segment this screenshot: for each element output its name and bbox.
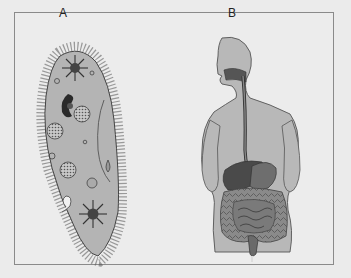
micronucleus <box>67 103 73 109</box>
paramecium <box>41 46 123 262</box>
human-figure <box>202 37 300 262</box>
rectum <box>248 236 258 257</box>
food-vacuole-small <box>87 178 97 188</box>
cell-body <box>45 51 119 256</box>
food-vacuole <box>60 162 76 178</box>
contractile-vacuole-bottom <box>79 200 107 228</box>
diagram-canvas <box>0 0 351 278</box>
food-vacuole <box>74 106 90 122</box>
food-vacuole <box>47 123 63 139</box>
